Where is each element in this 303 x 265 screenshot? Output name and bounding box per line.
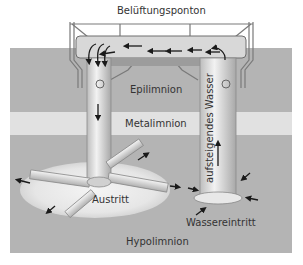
inlet-label: Wassereintritt xyxy=(186,218,256,228)
pontoon-label: Belüftungsponton xyxy=(117,6,206,16)
metalimnion-label: Metalimnion xyxy=(125,119,187,129)
lake-aeration-illustration xyxy=(0,0,303,265)
rising-water-label: aufsteigendes Wasser xyxy=(205,73,215,183)
rising-pipe-foot xyxy=(194,192,242,204)
hypolimnion-label: Hypolimnion xyxy=(126,237,189,247)
outlet-label: Austritt xyxy=(92,195,129,205)
epilimnion-label: Epilimnion xyxy=(130,85,182,95)
pontoon-body xyxy=(76,36,246,58)
